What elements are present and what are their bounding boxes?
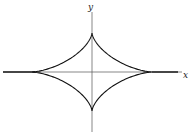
astroid-diagram: y x <box>0 0 194 135</box>
x-axis-label: x <box>183 70 188 80</box>
y-axis-label: y <box>87 2 94 12</box>
